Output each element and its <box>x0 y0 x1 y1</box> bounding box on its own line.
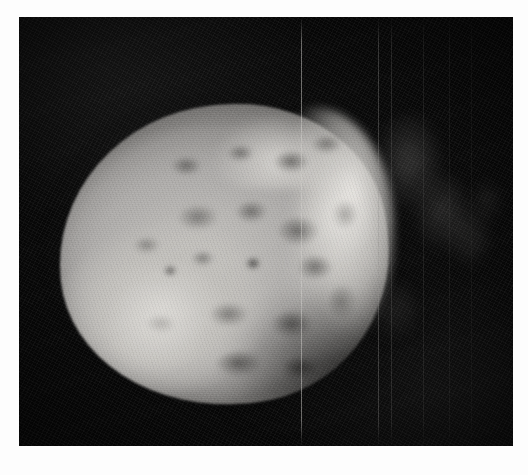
astronomical-image-frame <box>19 17 513 446</box>
crater-central-b <box>235 201 271 227</box>
crater-north-rim <box>311 135 345 157</box>
crater-upper-mid <box>227 145 257 165</box>
comet-nucleus <box>59 105 389 405</box>
crater-central-a <box>177 205 223 235</box>
crater-upper-left <box>171 157 205 179</box>
crater-mid-left <box>133 237 163 257</box>
